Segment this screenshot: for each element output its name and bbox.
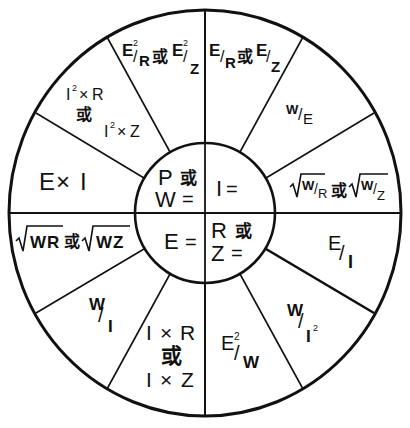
svg-text:I: I [348,252,353,272]
svg-text:=: = [226,178,238,200]
svg-text:或: 或 [76,105,92,124]
svg-text:R: R [92,86,104,103]
svg-text:W: W [243,353,260,372]
svg-text:或: 或 [161,344,182,368]
svg-text:/: / [298,310,304,332]
svg-text:R: R [318,186,327,201]
svg-text:R: R [139,52,150,69]
svg-text:R: R [47,233,59,252]
svg-text:或: 或 [235,221,252,241]
svg-text:×: × [160,368,172,391]
svg-text:W: W [96,233,113,252]
svg-text:Z: Z [113,233,123,252]
svg-text:E: E [221,332,234,354]
svg-text:/: / [339,242,345,264]
svg-text:R: R [225,54,236,71]
svg-text:=: = [231,242,243,264]
svg-text:E: E [39,168,55,195]
svg-text:R: R [180,321,195,344]
svg-text:I: I [108,317,113,336]
svg-text:Z: Z [181,368,194,391]
svg-text:×: × [56,168,70,195]
svg-text:2: 2 [133,38,138,48]
svg-text:W: W [30,233,47,252]
svg-text:2: 2 [313,323,318,333]
svg-text:E: E [209,41,220,60]
svg-text:或: 或 [331,181,347,200]
svg-text:=: = [185,231,197,253]
svg-text:×: × [79,86,88,103]
svg-text:I: I [216,176,222,201]
svg-text:/: / [183,48,188,65]
svg-text:或: 或 [180,168,197,188]
svg-text:I: I [66,86,70,103]
svg-text:/: / [234,342,240,364]
svg-text:I: I [146,321,152,344]
svg-text:Z: Z [130,123,140,140]
svg-text:=: = [182,188,194,210]
svg-text:或: 或 [152,47,168,66]
svg-text:E: E [303,110,313,127]
svg-text:I: I [146,368,152,391]
svg-text:Z: Z [211,241,224,266]
svg-text:2: 2 [110,120,115,130]
svg-text:×: × [117,123,126,140]
svg-text:E: E [164,229,179,254]
svg-text:E: E [122,41,133,60]
svg-text:I: I [306,327,311,346]
svg-text:×: × [160,321,172,344]
svg-text:或: 或 [237,47,253,66]
svg-text:2: 2 [72,83,77,93]
svg-text:或: 或 [64,232,80,251]
svg-text:I: I [104,123,108,140]
svg-text:2: 2 [183,38,188,48]
svg-text:E: E [172,41,183,60]
center-current-label: I = [216,176,238,201]
svg-text:Z: Z [377,188,385,203]
svg-text:Z: Z [190,60,199,77]
formula-wheel: P 或 W = I = E = R 或 Z = E 2 / R 或 E 2 / … [0,0,410,428]
segment-e-times-i: E × I [39,168,87,195]
svg-text:/: / [133,48,138,65]
svg-text:/: / [98,304,104,326]
svg-text:W: W [155,187,176,212]
svg-text:R: R [211,218,227,243]
svg-text:I: I [80,168,87,195]
svg-text:Z: Z [271,58,280,75]
svg-text:2: 2 [234,331,240,342]
